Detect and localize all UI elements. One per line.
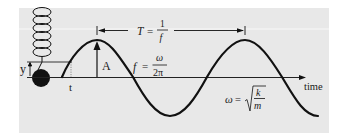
time-axis-label: time (304, 81, 323, 92)
svg-text:k: k (256, 87, 261, 98)
displacement-label: y (20, 62, 26, 76)
svg-text:1: 1 (160, 19, 165, 29)
svg-text:m: m (254, 100, 261, 111)
svg-text:=: = (147, 25, 153, 37)
svg-text:ω: ω (156, 52, 163, 63)
diagram-canvas: y time t A T = 1 f (0, 0, 344, 135)
svg-text:=: = (142, 60, 148, 72)
time-marker-label: t (69, 81, 72, 93)
amplitude-label: A (102, 59, 111, 73)
svg-text:2π: 2π (153, 67, 163, 78)
svg-text:ω: ω (225, 93, 233, 105)
svg-text:=: = (235, 94, 241, 105)
